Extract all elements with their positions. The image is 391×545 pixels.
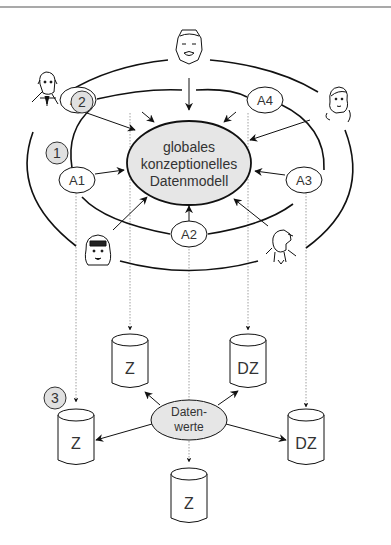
- storage-cylinder-z-3: Z: [171, 468, 207, 523]
- svg-text:A4: A4: [257, 93, 273, 108]
- svg-text:DZ: DZ: [295, 435, 317, 452]
- user-bottom-right-icon: [266, 230, 296, 264]
- svg-text:Z: Z: [184, 495, 194, 512]
- global-conceptual-model: globales konzeptionelles Datenmodell: [127, 121, 251, 205]
- user-bottom-left-icon: [85, 235, 110, 265]
- svg-text:A3: A3: [296, 173, 312, 188]
- storage-cylinder-z-1: Z: [112, 334, 148, 388]
- application-A3: A3: [286, 167, 322, 193]
- marker-2: 2: [71, 91, 93, 113]
- svg-text:Z: Z: [71, 435, 81, 452]
- svg-text:2: 2: [78, 94, 86, 110]
- user-top-right-icon: [326, 87, 350, 122]
- storage-cylinder-z-2: Z: [58, 409, 94, 465]
- application-A2: A2: [171, 221, 207, 247]
- storage-cylinder-dz-2: DZ: [288, 409, 324, 465]
- svg-text:A1: A1: [69, 173, 85, 188]
- svg-text:werte: werte: [173, 420, 204, 434]
- svg-text:A2: A2: [181, 227, 197, 242]
- svg-text:Daten-: Daten-: [171, 405, 207, 419]
- user-top-icon: [176, 30, 202, 64]
- svg-text:1: 1: [53, 145, 61, 161]
- marker-3: 3: [44, 387, 66, 409]
- svg-text:Z: Z: [125, 360, 135, 377]
- svg-text:Datenmodell: Datenmodell: [150, 173, 229, 189]
- application-A1: A1: [59, 167, 95, 193]
- svg-text:globales: globales: [163, 139, 215, 155]
- svg-text:3: 3: [51, 390, 59, 406]
- storage-cylinder-dz-1: DZ: [230, 334, 266, 388]
- diagram-canvas: globales konzeptionelles Datenmodell A5 …: [0, 0, 391, 545]
- user-top-left-icon: [32, 72, 58, 106]
- data-values: Daten- werte: [151, 400, 227, 440]
- application-A4: A4: [247, 87, 283, 113]
- marker-1: 1: [46, 142, 68, 164]
- svg-text:konzeptionelles: konzeptionelles: [141, 156, 238, 172]
- svg-text:DZ: DZ: [237, 360, 259, 377]
